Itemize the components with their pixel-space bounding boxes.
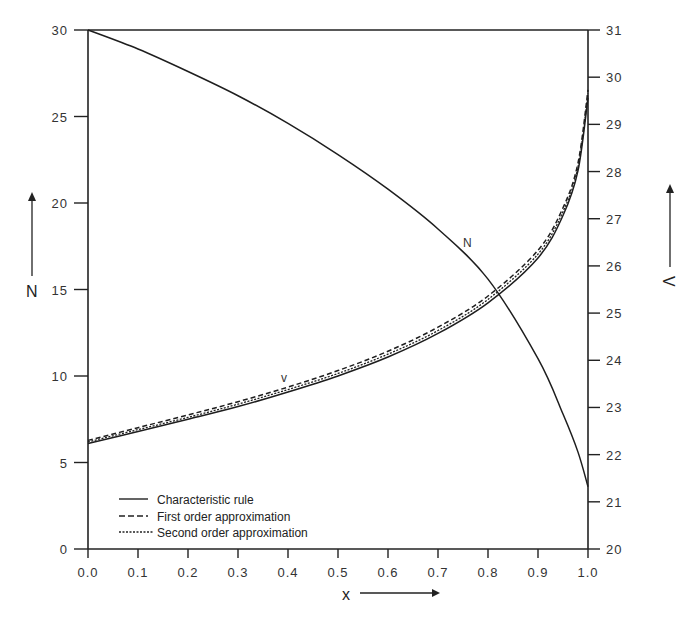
chart: 0.00.10.20.30.40.50.60.70.80.91.0 051015… (0, 0, 698, 620)
right-tick-label: 31 (606, 23, 622, 38)
curve-label-n: N (463, 236, 472, 250)
left-tick-label: 10 (52, 369, 68, 384)
legend: Characteristic rule First order approxim… (119, 493, 308, 540)
legend-label-first-order: First order approximation (157, 510, 290, 524)
x-tick-label: 0.9 (527, 565, 548, 580)
left-tick-label: 5 (60, 456, 68, 471)
left-axis-ticks: 051015202530 (52, 23, 88, 557)
legend-item-first-order: First order approximation (119, 510, 290, 524)
legend-label-characteristic: Characteristic rule (157, 493, 254, 507)
left-tick-label: 20 (52, 196, 68, 211)
legend-label-second-order: Second order approximation (157, 526, 308, 540)
x-tick-label: 0.3 (227, 565, 248, 580)
right-tick-label: 29 (606, 117, 622, 132)
up-arrow-icon-right (666, 184, 674, 267)
right-axis-ticks: 202122232425262728293031 (588, 23, 622, 557)
right-tick-label: 26 (606, 259, 622, 274)
right-tick-label: 24 (606, 353, 622, 368)
curve-v-second-order-approximation (88, 94, 588, 442)
left-tick-label: 15 (52, 283, 68, 298)
left-axis-title: N (26, 283, 38, 300)
curves (88, 30, 588, 487)
x-tick-label: 0.6 (377, 565, 398, 580)
x-axis-title: x (342, 586, 350, 603)
legend-item-second-order: Second order approximation (119, 526, 308, 540)
right-tick-label: 20 (606, 542, 622, 557)
x-tick-label: 0.4 (277, 565, 298, 580)
x-tick-label: 1.0 (577, 565, 598, 580)
right-axis-title: V (660, 276, 677, 287)
right-tick-label: 28 (606, 165, 622, 180)
x-tick-label: 0.7 (427, 565, 448, 580)
right-tick-label: 25 (606, 306, 622, 321)
right-tick-label: 23 (606, 400, 622, 415)
right-tick-label: 30 (606, 70, 622, 85)
x-tick-label: 0.8 (477, 565, 498, 580)
x-tick-label: 0.1 (127, 565, 148, 580)
right-tick-label: 21 (606, 495, 622, 510)
curve-n-characteristic-rule (88, 30, 588, 487)
x-arrow-icon (360, 589, 440, 597)
left-tick-label: 25 (52, 110, 68, 125)
left-tick-label: 0 (60, 542, 68, 557)
x-tick-label: 0.0 (77, 565, 98, 580)
right-tick-label: 22 (606, 448, 622, 463)
curve-v-first-order-approximation (88, 90, 588, 441)
plot-frame (88, 30, 588, 549)
curve-v-characteristic-rule (88, 98, 588, 444)
x-axis-ticks: 0.00.10.20.30.40.50.60.70.80.91.0 (77, 549, 598, 580)
curve-label-v: v (281, 371, 287, 385)
x-tick-label: 0.2 (177, 565, 198, 580)
up-arrow-icon-left (28, 192, 36, 276)
right-tick-label: 27 (606, 212, 622, 227)
legend-item-characteristic-rule: Characteristic rule (119, 493, 254, 507)
left-tick-label: 30 (52, 23, 68, 38)
x-tick-label: 0.5 (327, 565, 348, 580)
